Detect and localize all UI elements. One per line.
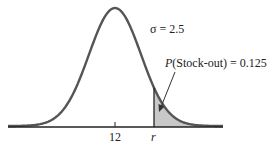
annotation-arrow [161, 72, 175, 107]
tick-label-r: r [151, 131, 156, 143]
sigma-label: σ = 2.5 [150, 23, 184, 35]
prob-text: (Stock-out) = 0.125 [172, 56, 266, 70]
stockout-probability-label: P(Stock-out) = 0.125 [165, 57, 267, 69]
tick-label-mean: 12 [109, 131, 121, 143]
normal-distribution-diagram [0, 0, 272, 148]
